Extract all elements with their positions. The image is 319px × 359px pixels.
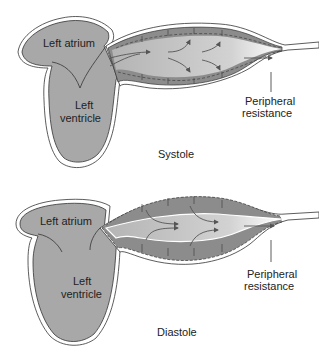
atrium-label: Left atrium [43,37,95,49]
atrium-label: Left atrium [40,215,92,227]
ventricle-label-1: Left [73,275,91,287]
diastole-caption: Diastole [157,326,197,338]
resistance-label-1: Peripheral [247,268,297,280]
ventricle-label-1: Left [75,99,93,111]
aortic-windkessel-diagram: Left atrium Left ventricle Peripheral re… [0,0,319,359]
diastole-panel: Left atrium Left ventricle Peripheral re… [16,196,319,345]
systole-panel: Left atrium Left ventricle Peripheral re… [18,17,319,168]
resistance-label-2: resistance [242,107,292,119]
systole-caption: Systole [158,148,194,160]
ventricle-label-2: ventricle [60,112,101,124]
resistance-label-2: resistance [244,280,294,292]
resistance-label-1: Peripheral [245,95,295,107]
ventricle-label-2: ventricle [61,288,102,300]
